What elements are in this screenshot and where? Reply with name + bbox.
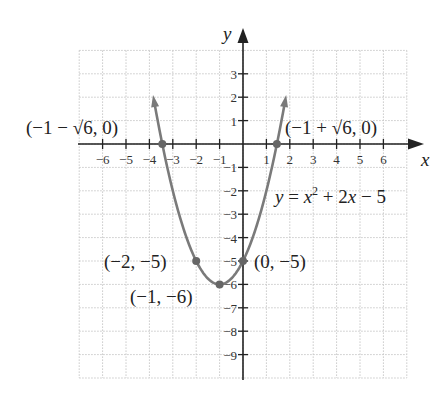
data-point bbox=[192, 257, 200, 265]
vertex-label: (−1, −6) bbox=[130, 286, 193, 308]
x-tick-label: 1 bbox=[263, 152, 270, 167]
root-left-label: (−1 − √6, 0) bbox=[26, 117, 118, 139]
x-tick-label: 3 bbox=[310, 152, 317, 167]
y-tick-label: 2 bbox=[231, 90, 238, 105]
y-tick-label: −8 bbox=[223, 324, 237, 339]
x-tick-label: −6 bbox=[96, 152, 110, 167]
y-tick-label: −9 bbox=[223, 348, 237, 363]
equation-label: y = x2 + 2x − 5 bbox=[273, 184, 386, 207]
root-right-label: (−1 + √6, 0) bbox=[285, 117, 377, 139]
y-axis-arrow-icon bbox=[238, 28, 249, 43]
eq-minus5: − 5 bbox=[356, 186, 386, 207]
data-point bbox=[216, 280, 224, 288]
point-neg2-label: (−2, −5) bbox=[104, 251, 167, 273]
y-tick-label: −4 bbox=[223, 231, 237, 246]
eq-y: y bbox=[273, 186, 284, 207]
data-point bbox=[158, 140, 166, 148]
x-tick-label: 5 bbox=[357, 152, 364, 167]
y-tick-label: −7 bbox=[223, 301, 237, 316]
y-tick-label: −5 bbox=[223, 254, 237, 269]
eq-equals: = bbox=[283, 186, 303, 207]
y-tick-label: 3 bbox=[231, 67, 238, 82]
x-tick-label: −2 bbox=[189, 152, 203, 167]
x-tick-label: 4 bbox=[333, 152, 340, 167]
parabola-chart: −6−5−4−3−2−1123456321−1−2−3−4−5−6−7−8−9 … bbox=[0, 0, 442, 404]
y-tick-label: −3 bbox=[223, 207, 237, 222]
x-tick-label: −4 bbox=[142, 152, 156, 167]
eq-plus2: + 2 bbox=[318, 186, 348, 207]
y-tick-label: 1 bbox=[231, 114, 238, 129]
y-tick-label: −1 bbox=[223, 160, 237, 175]
x-tick-label: 2 bbox=[287, 152, 294, 167]
data-point bbox=[273, 140, 281, 148]
y-intercept-label: (0, −5) bbox=[254, 251, 306, 273]
y-axis-label: y bbox=[221, 23, 232, 44]
x-tick-label: 6 bbox=[380, 152, 387, 167]
x-tick-label: −5 bbox=[119, 152, 133, 167]
y-tick-label: −2 bbox=[223, 184, 237, 199]
x-axis-label: x bbox=[420, 149, 430, 170]
data-point bbox=[239, 257, 247, 265]
x-axis-arrow-icon bbox=[408, 139, 424, 150]
